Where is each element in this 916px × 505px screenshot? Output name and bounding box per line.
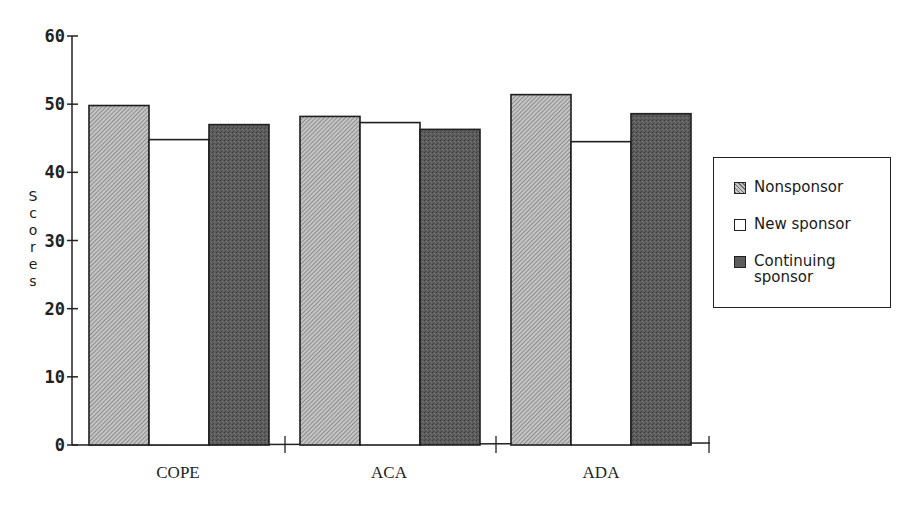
bar-nonsponsor [511, 95, 571, 445]
legend-item-continuing-sponsor: Continuing sponsor [734, 253, 844, 285]
plot-area: 0102030405060COPEACAADA [45, 26, 710, 482]
y-tick-label: 50 [45, 94, 65, 114]
bar-continuing-sponsor [209, 125, 269, 445]
legend-item-nonsponsor: Nonsponsor [734, 179, 874, 195]
bar-continuing-sponsor [631, 114, 691, 445]
y-tick-label: 30 [45, 231, 65, 251]
y-tick-label: 10 [45, 367, 65, 387]
y-axis-label: Scores [26, 188, 40, 290]
bar-new-sponsor [571, 142, 631, 445]
dark-swatch-icon [734, 256, 746, 268]
x-category-label: ADA [583, 463, 621, 482]
bar-nonsponsor [89, 106, 149, 445]
bar-new-sponsor [149, 140, 209, 445]
white-swatch-icon [734, 219, 746, 231]
bar-nonsponsor [300, 116, 360, 445]
legend-label: Continuing sponsor [754, 253, 844, 285]
y-tick-label: 40 [45, 162, 65, 182]
x-category-label: COPE [156, 463, 199, 482]
y-tick-label: 60 [45, 26, 65, 46]
legend-label: Nonsponsor [754, 179, 874, 195]
y-tick-label: 0 [55, 435, 65, 455]
legend-label: New sponsor [754, 216, 874, 232]
x-category-label: ACA [371, 463, 408, 482]
bar-new-sponsor [360, 123, 420, 445]
hatched-swatch-icon [734, 182, 746, 194]
y-tick-label: 20 [45, 299, 65, 319]
bar-continuing-sponsor [420, 129, 480, 445]
legend: Nonsponsor New sponsor Continuing sponso… [713, 157, 891, 308]
legend-item-new-sponsor: New sponsor [734, 216, 874, 232]
